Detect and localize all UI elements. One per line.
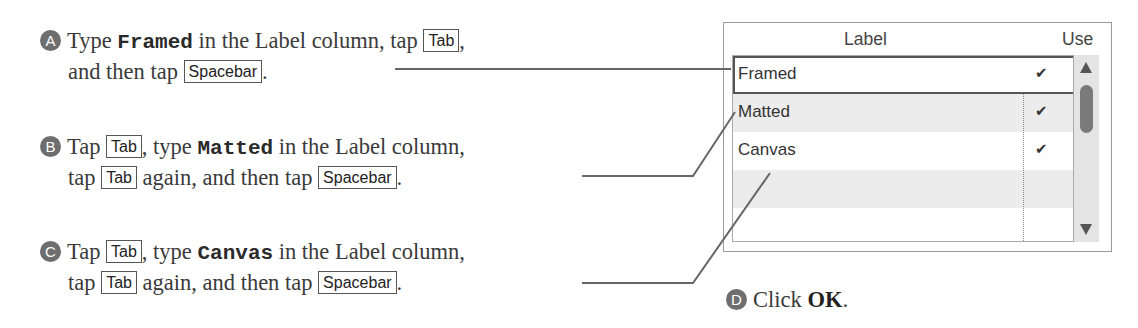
callout-line-c [582,173,770,283]
callout-line-b [582,112,735,176]
callout-lines [0,0,1138,328]
